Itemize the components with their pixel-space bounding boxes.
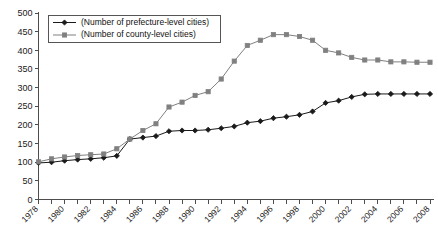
y-axis: 050100150200250300350400450500 [17,8,38,205]
x-axis: 1978198019821984198619881990199219941996… [19,200,434,225]
x-axis-tick-label: 2002 [333,204,354,225]
data-point-marker [297,112,302,117]
data-point-marker [414,91,419,96]
data-point-marker [193,128,198,133]
line-chart: 050100150200250300350400450500 197819801… [0,0,438,243]
data-point-marker [401,91,406,96]
data-point-marker [310,109,315,114]
data-point-marker [337,51,341,55]
data-point-marker [297,34,301,38]
data-point-marker [36,160,40,164]
chart-legend: (Number of prefecture-level cities)(Numb… [48,15,220,42]
data-point-marker [284,33,288,37]
y-axis-tick-label: 400 [17,46,32,56]
data-point-marker [206,127,211,132]
data-point-marker [128,137,132,141]
data-point-marker [76,153,80,157]
data-point-marker [102,152,106,156]
data-point-marker [167,105,171,109]
data-point-marker [89,153,93,157]
data-point-marker [402,60,406,64]
data-series-group [36,33,433,166]
data-point-marker [271,116,276,121]
data-point-marker [206,90,210,94]
y-axis-tick-label: 250 [17,101,32,111]
y-axis-tick-label: 100 [17,157,32,167]
data-point-marker [284,114,289,119]
x-axis-tick-label: 1994 [228,204,249,225]
x-axis-tick-label: 1992 [202,204,223,225]
data-point-marker [140,135,145,140]
series-line [39,35,431,162]
y-axis-tick-label: 150 [17,139,32,149]
x-axis-tick-label: 1978 [19,204,40,225]
data-point-marker [415,60,419,64]
x-axis-tick-label: 2004 [359,204,380,225]
data-point-marker [180,100,184,104]
data-point-marker [63,155,67,159]
data-point-marker [428,60,432,64]
y-axis-tick-label: 0 [27,195,32,205]
data-point-marker [310,38,314,42]
legend-label: (Number of prefecture-level cities) [81,17,209,27]
data-point-marker [166,129,171,134]
x-axis-tick-label: 1990 [176,204,197,225]
data-point-marker [153,133,158,138]
data-point-marker [245,43,249,47]
y-axis-tick-label: 50 [22,176,32,186]
series-2 [36,33,432,164]
data-point-marker [350,55,354,59]
x-axis-tick-label: 2006 [385,204,406,225]
data-point-marker [389,60,393,64]
x-axis-tick-label: 2000 [307,204,328,225]
data-point-marker [179,128,184,133]
x-axis-tick-label: 1996 [254,204,275,225]
x-axis-tick-label: 1982 [72,204,93,225]
legend-marker [62,33,66,37]
data-point-marker [219,77,223,81]
y-axis-tick-label: 450 [17,27,32,37]
x-axis-tick-label: 1998 [280,204,301,225]
legend-label: (Number of county-level cities) [81,29,196,39]
data-point-marker [375,91,380,96]
y-axis-tick-label: 350 [17,64,32,74]
data-point-marker [258,119,263,124]
data-point-marker [271,33,275,37]
chart-canvas: 050100150200250300350400450500 197819801… [0,0,438,243]
data-point-marker [232,124,237,129]
data-point-marker [193,93,197,97]
data-point-marker [427,91,432,96]
data-point-marker [258,38,262,42]
y-axis-tick-label: 200 [17,120,32,130]
data-point-marker [336,98,341,103]
data-point-marker [388,91,393,96]
data-point-marker [245,120,250,125]
y-axis-tick-label: 300 [17,83,32,93]
x-axis-tick-label: 2008 [411,204,432,225]
x-axis-tick-label: 1988 [150,204,171,225]
data-point-marker [115,147,119,151]
y-axis-tick-label: 500 [17,8,32,18]
data-point-marker [363,58,367,62]
data-point-marker [141,128,145,132]
data-point-marker [323,100,328,105]
data-point-marker [362,92,367,97]
data-point-marker [324,48,328,52]
data-point-marker [154,122,158,126]
data-point-marker [376,58,380,62]
data-point-marker [219,126,224,131]
x-axis-tick-label: 1986 [124,204,145,225]
data-point-marker [232,59,236,63]
data-point-marker [49,157,53,161]
x-axis-tick-label: 1984 [98,204,119,225]
x-axis-tick-label: 1980 [46,204,67,225]
data-point-marker [349,94,354,99]
